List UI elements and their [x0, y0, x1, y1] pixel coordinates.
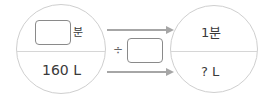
divisor-answer-box[interactable]: [127, 38, 163, 63]
right-circle: [170, 5, 258, 93]
divide-operator: ÷: [113, 44, 123, 56]
right-divider: [171, 51, 257, 52]
right-top-value: 1분: [201, 26, 221, 39]
bottom-arrow-icon: [107, 68, 174, 76]
top-arrow-icon: [107, 26, 174, 34]
right-bottom-value: ? L: [201, 65, 219, 78]
